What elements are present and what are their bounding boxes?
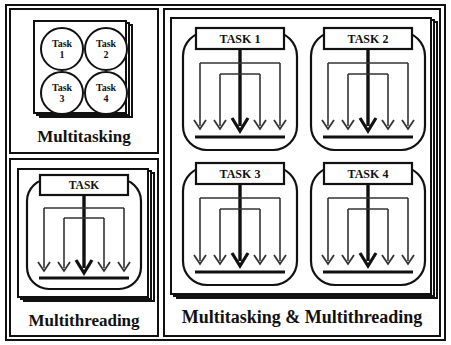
thread-unit-task-1: TASK 1 <box>176 22 304 158</box>
left-column: Task 1 Task 2 Task 3 Task <box>9 8 159 337</box>
thread-diagram-svg-1: TASK 1 <box>176 22 304 158</box>
multithreading-stack: TASK <box>17 168 155 304</box>
stack-sheet-front: TASK 1 <box>170 17 432 295</box>
thread-unit-task-4: TASK 4 <box>304 157 432 293</box>
thread-diagram-svg-4: TASK 4 <box>304 157 432 293</box>
stack-sheet-front: Task 1 Task 2 Task 3 Task <box>33 20 127 114</box>
thread-unit-task-3: TASK 3 <box>176 157 304 293</box>
right-column: TASK 1 <box>163 8 441 337</box>
panel-multithreading: TASK <box>9 158 159 337</box>
panel-label-multithreading: Multithreading <box>11 311 157 331</box>
task-circle-2-number: 2 <box>104 49 109 60</box>
panel-multitasking-multithreading: TASK 1 <box>163 8 441 337</box>
task-circle-4: Task 4 <box>84 71 128 115</box>
diagram-root: Task 1 Task 2 Task 3 Task <box>0 0 451 345</box>
task-circle-3-number: 3 <box>60 93 65 104</box>
task-circle-3: Task 3 <box>40 71 84 115</box>
task-circle-1-number: 1 <box>60 49 65 60</box>
task-circle-3-label: Task <box>52 82 72 93</box>
panel-label-multitasking-multithreading: Multitasking & Multithreading <box>165 307 439 328</box>
task-circle-2-label: Task <box>96 38 116 49</box>
task-circle-1: Task 1 <box>40 27 84 71</box>
thread-diagram-svg-3: TASK 3 <box>176 157 304 293</box>
task-box-label: TASK 1 <box>220 32 261 46</box>
task-box-label: TASK <box>69 179 100 191</box>
multitasking-task-stack: Task 1 Task 2 Task 3 Task <box>33 20 133 120</box>
task-circle-1-label: Task <box>52 38 72 49</box>
stack-sheet-front: TASK <box>17 168 149 298</box>
panel-label-multitasking: Multitasking <box>11 127 157 147</box>
task-circle-4-label: Task <box>96 82 116 93</box>
thread-unit-task-2: TASK 2 <box>304 22 432 158</box>
task-circle-4-number: 4 <box>104 93 109 104</box>
thread-diagram-svg-2: TASK 2 <box>304 22 432 158</box>
task-box-label: TASK 4 <box>348 167 389 181</box>
task-box-label: TASK 2 <box>348 32 389 46</box>
thread-unit-multithreading: TASK <box>21 171 147 297</box>
panel-multitasking: Task 1 Task 2 Task 3 Task <box>9 8 159 154</box>
task-circle-grid: Task 1 Task 2 Task 3 Task <box>35 22 125 112</box>
task-circle-2: Task 2 <box>84 27 128 71</box>
task-box-label: TASK 3 <box>220 167 261 181</box>
thread-diagram-svg: TASK <box>21 171 147 297</box>
both-stack: TASK 1 <box>170 17 438 301</box>
